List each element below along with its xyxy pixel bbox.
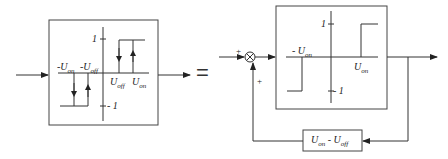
relay-pos-uon-label: Uon <box>354 62 368 75</box>
sum-plus-top: + <box>236 47 241 56</box>
sum-plus-bottom: + <box>257 77 262 86</box>
right-y-bottom-label: - 1 <box>333 86 344 96</box>
pos-uoff-label: Uoff <box>110 77 125 90</box>
feedback-gain-label: Uon - Uoff <box>311 135 348 148</box>
equals-sign: = <box>196 62 209 84</box>
diagram-canvas <box>0 0 448 159</box>
neg-uon-label: -Uon <box>57 62 75 75</box>
pos-uon-label: Uon <box>132 77 146 90</box>
neg-uoff-label: -Uoff <box>80 62 98 75</box>
right-y-top-label: 1 <box>321 19 326 29</box>
left-y-bottom-label: - 1 <box>107 101 118 111</box>
left-y-top-label: 1 <box>92 34 97 44</box>
relay-neg-uon-label: - Uon <box>292 46 312 59</box>
